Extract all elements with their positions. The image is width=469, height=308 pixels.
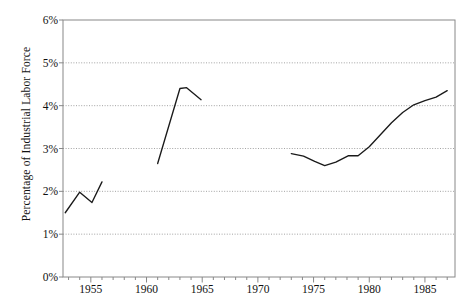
x-tick-label: 1975 bbox=[294, 283, 334, 295]
x-tick-label: 1985 bbox=[405, 283, 445, 295]
x-tick-label: 1960 bbox=[127, 283, 167, 295]
x-tick-label: 1980 bbox=[349, 283, 389, 295]
plot-area bbox=[0, 0, 469, 308]
line-chart: Percentage of Industrial Labor Force 0%1… bbox=[0, 0, 469, 308]
data-line-segment-2 bbox=[158, 88, 201, 164]
data-line-segment-3 bbox=[291, 91, 447, 166]
x-tick-label: 1970 bbox=[238, 283, 278, 295]
x-tick-label: 1955 bbox=[71, 283, 111, 295]
data-line-segment-1 bbox=[65, 182, 102, 213]
x-tick-label: 1965 bbox=[182, 283, 222, 295]
